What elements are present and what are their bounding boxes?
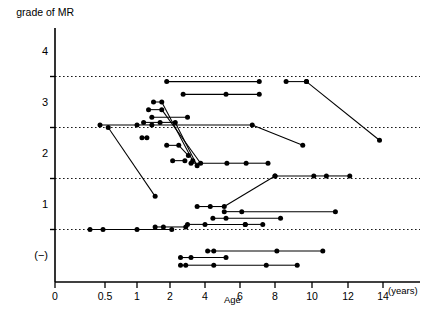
- data-point-marker: [159, 100, 164, 105]
- data-point-marker: [278, 216, 283, 221]
- data-point-marker: [153, 224, 158, 229]
- data-point-marker: [208, 204, 213, 209]
- data-point-marker: [311, 173, 316, 178]
- x-axis-title: Age: [224, 294, 241, 306]
- data-point-marker: [347, 173, 352, 178]
- data-point-marker: [266, 161, 271, 166]
- data-point-marker: [135, 227, 140, 232]
- series-case-21: [185, 222, 248, 227]
- series-case-25: [178, 263, 300, 268]
- y-tick-label-0: (−): [18, 249, 48, 261]
- x-tick-label-12: 12: [342, 290, 354, 302]
- plot-area: [0, 0, 435, 315]
- data-point-marker: [205, 248, 210, 253]
- data-point-marker: [146, 107, 151, 112]
- data-point-marker: [244, 161, 249, 166]
- x-axis-unit-label: (years): [388, 285, 418, 297]
- data-point-marker: [158, 120, 163, 125]
- series-segment: [306, 82, 379, 141]
- series-case-3: [304, 79, 382, 143]
- data-point-marker: [274, 248, 279, 253]
- data-point-marker: [377, 138, 382, 143]
- x-tick-label-4: 4: [202, 290, 208, 302]
- data-point-marker: [144, 135, 149, 140]
- data-point-marker: [181, 92, 186, 97]
- data-point-marker: [320, 248, 325, 253]
- data-point-marker: [185, 115, 190, 120]
- series-case-22: [243, 222, 266, 227]
- data-point-marker: [183, 263, 188, 268]
- data-point-marker: [224, 255, 229, 260]
- series-case-13: [170, 158, 187, 163]
- series-case-11: [139, 135, 149, 140]
- data-point-marker: [164, 79, 169, 84]
- data-point-marker: [284, 79, 289, 84]
- data-point-marker: [151, 100, 156, 105]
- data-point-marker: [295, 263, 300, 268]
- x-tick-label-10: 10: [306, 290, 318, 302]
- series-segment: [252, 125, 303, 145]
- data-point-marker: [178, 263, 183, 268]
- data-point-marker: [149, 115, 154, 120]
- y-tick-label-2: 2: [18, 147, 48, 159]
- data-point-marker: [139, 135, 144, 140]
- data-point-marker: [195, 204, 200, 209]
- data-point-marker: [189, 255, 194, 260]
- data-point-marker: [300, 143, 305, 148]
- data-point-marker: [141, 120, 146, 125]
- data-point-marker: [260, 222, 265, 227]
- data-point-marker: [98, 122, 103, 127]
- data-point-marker: [153, 194, 158, 199]
- series-case-23: [205, 248, 325, 253]
- data-point-marker: [176, 143, 181, 148]
- data-point-marker: [135, 122, 140, 127]
- y-tick-label-1: 1: [18, 198, 48, 210]
- data-point-marker: [224, 161, 229, 166]
- data-point-marker: [224, 216, 229, 221]
- series-case-1: [164, 79, 262, 84]
- data-point-marker: [159, 107, 164, 112]
- data-point-marker: [164, 143, 169, 148]
- mr-grade-vs-age-scatter-chart: grade of MR 00.5124681012144321(−) Age (…: [0, 0, 435, 315]
- data-point-marker: [169, 227, 174, 232]
- x-tick-label-1: 1: [134, 290, 140, 302]
- data-point-marker: [224, 92, 229, 97]
- data-point-marker: [149, 122, 154, 127]
- y-tick-label-4: 4: [18, 45, 48, 57]
- data-point-marker: [170, 158, 175, 163]
- series-case-6: [146, 107, 203, 166]
- data-point-marker: [211, 248, 216, 253]
- series-case-10: [106, 125, 158, 199]
- data-point-marker: [243, 222, 248, 227]
- data-point-marker: [264, 263, 269, 268]
- data-point-marker: [203, 222, 208, 227]
- data-point-marker: [257, 92, 262, 97]
- data-point-marker: [273, 173, 278, 178]
- data-point-marker: [101, 227, 106, 232]
- data-point-marker: [178, 255, 183, 260]
- data-point-marker: [186, 153, 191, 158]
- data-point-marker: [210, 216, 215, 221]
- data-point-marker: [88, 227, 93, 232]
- series-case-16: [222, 209, 338, 214]
- data-point-marker: [324, 173, 329, 178]
- x-tick-label-8: 8: [272, 290, 278, 302]
- data-point-marker: [333, 209, 338, 214]
- series-segment: [224, 176, 275, 207]
- data-point-marker: [250, 122, 255, 127]
- series-case-24: [178, 255, 229, 260]
- data-point-marker: [304, 79, 309, 84]
- data-point-marker: [239, 209, 244, 214]
- data-point-marker: [211, 263, 216, 268]
- data-point-marker: [161, 224, 166, 229]
- data-point-marker: [182, 158, 187, 163]
- data-point-marker: [222, 204, 227, 209]
- series-case-9: [98, 122, 306, 147]
- series-case-18: [273, 173, 353, 178]
- series-case-17: [210, 216, 283, 221]
- data-point-marker: [185, 222, 190, 227]
- data-point-marker: [189, 161, 194, 166]
- y-tick-label-3: 3: [18, 96, 48, 108]
- x-tick-label-0: 0: [52, 290, 58, 302]
- data-point-marker: [257, 79, 262, 84]
